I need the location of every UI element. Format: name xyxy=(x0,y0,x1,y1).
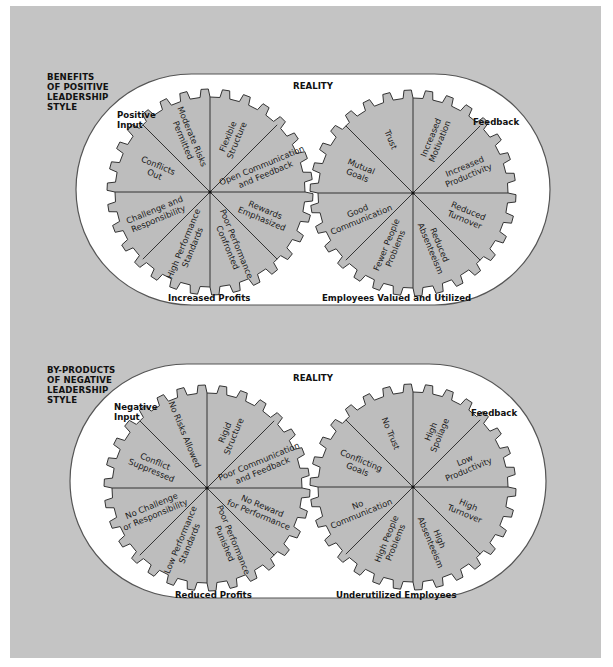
feedback-label: Feedback xyxy=(473,117,519,127)
increased-profits-caption: Increased Profits xyxy=(168,293,250,303)
gear-hub xyxy=(411,485,414,488)
gear-hub xyxy=(411,191,414,194)
gear-hub xyxy=(205,486,208,489)
feedback-label: Feedback xyxy=(471,408,517,418)
employees-valued-caption: Employees Valued and Utilized xyxy=(322,293,471,303)
reality-label: REALITY xyxy=(293,373,334,383)
reality-label: REALITY xyxy=(293,81,334,91)
gear-hub xyxy=(208,190,211,193)
diagram-canvas: Moderate RisksPermittedFlexibleStructure… xyxy=(0,0,613,667)
underutilized-employees-caption: Underutilized Employees xyxy=(336,590,457,600)
reduced-profits-caption: Reduced Profits xyxy=(175,590,252,600)
